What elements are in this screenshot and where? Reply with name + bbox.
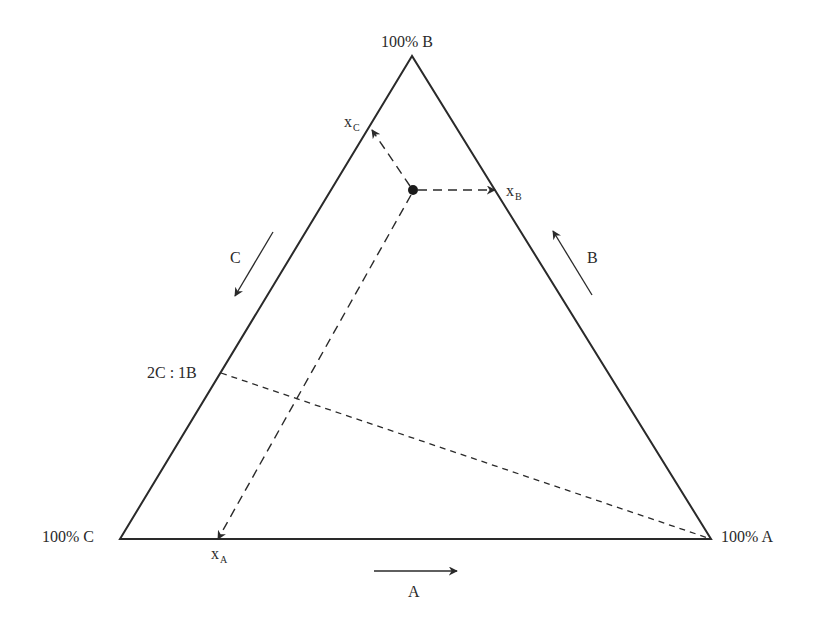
projection-label-xa: xA <box>211 546 227 565</box>
direction-label-b: B <box>587 250 598 266</box>
xc-sub: C <box>353 122 360 133</box>
xb-sub: B <box>515 191 522 202</box>
projection-label-xb: xB <box>506 183 522 202</box>
ratio-line-2c-1b <box>221 373 711 539</box>
vertex-label-c: 100% C <box>42 529 94 545</box>
direction-arrow-c <box>235 232 273 296</box>
xa-main: x <box>211 545 219 562</box>
projection-label-xc: xC <box>344 114 360 133</box>
projection-xc-arrow <box>372 130 410 186</box>
xb-main: x <box>506 182 514 199</box>
projection-xa-arrow <box>218 195 411 539</box>
xc-main: x <box>344 113 352 130</box>
vertex-label-a: 100% A <box>721 529 773 545</box>
vertex-label-b: 100% B <box>381 34 433 50</box>
ternary-diagram <box>0 0 824 625</box>
xa-sub: A <box>220 554 227 565</box>
triangle-outline <box>120 56 711 539</box>
ratio-label: 2C : 1B <box>147 365 197 381</box>
composition-point <box>408 185 418 195</box>
direction-label-c: C <box>230 250 241 266</box>
direction-label-a: A <box>408 584 420 600</box>
